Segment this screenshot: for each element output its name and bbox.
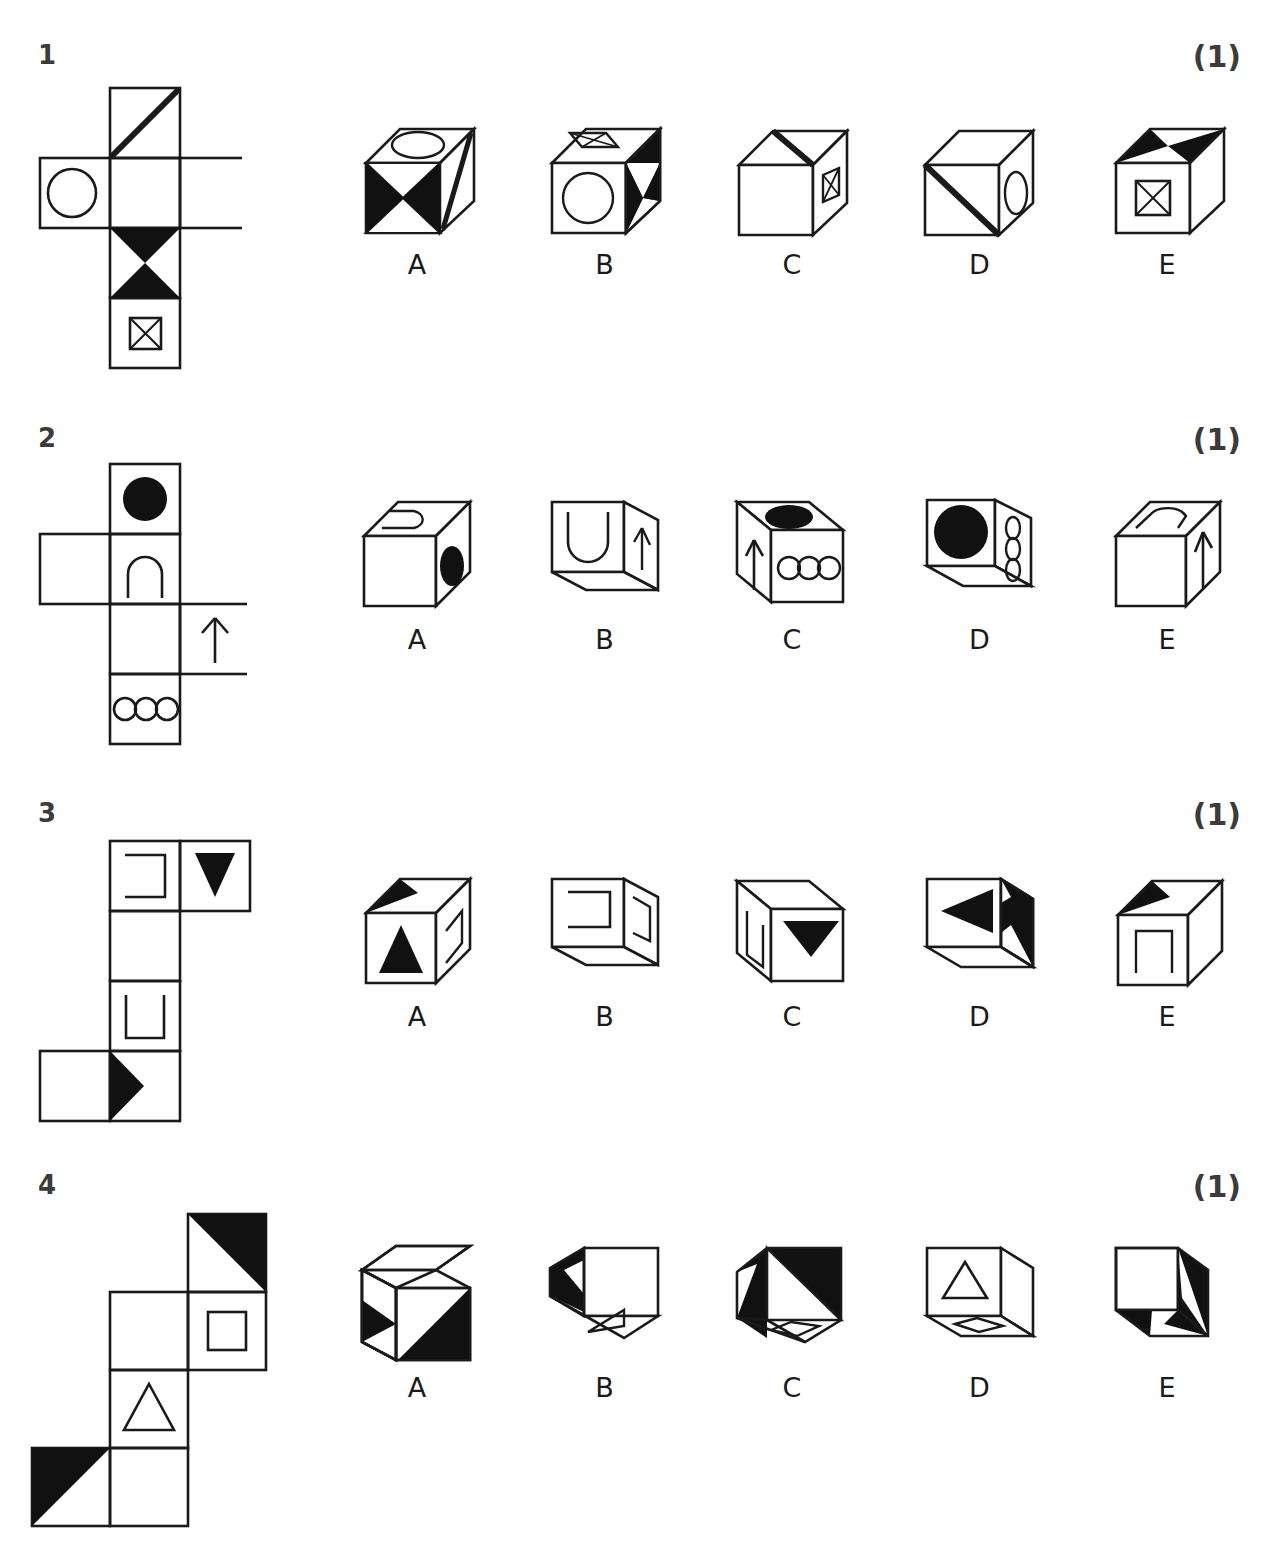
option-2-B[interactable]: B	[540, 490, 670, 653]
option-1-A-label: A	[408, 251, 426, 278]
options-row-2: A B	[352, 490, 1232, 653]
option-1-C[interactable]: C	[727, 115, 857, 278]
option-1-E-label: E	[1158, 251, 1175, 278]
question-number-1: 1	[38, 42, 56, 68]
option-1-E[interactable]: E	[1102, 115, 1232, 278]
question-block-3: 3 (1)	[0, 775, 1267, 1155]
option-3-E-top-black-tri	[1118, 881, 1170, 915]
net1-circle	[48, 169, 96, 217]
question-number-4: 4	[38, 1172, 56, 1198]
option-2-A-black-ellipse	[440, 546, 464, 586]
net3-bracket-u	[126, 995, 164, 1038]
option-4-B[interactable]: B	[540, 1238, 670, 1401]
option-2-A-label: A	[408, 626, 426, 653]
option-2-D-label: D	[969, 626, 990, 653]
options-row-3: A B	[352, 867, 1232, 1030]
option-3-B-label: B	[595, 1003, 614, 1030]
net-diagram-1	[32, 80, 242, 380]
question-mark-1: (1)	[1193, 42, 1241, 72]
net4-triangle-outline	[124, 1384, 174, 1430]
option-3-A-top-black-tri	[366, 879, 418, 913]
option-1-A[interactable]: A	[352, 115, 482, 278]
question-block-4: 4 (1)	[0, 1150, 1267, 1568]
net2-arrow-up	[202, 618, 228, 663]
question-mark-2: (1)	[1193, 425, 1241, 455]
net4-black-tri-bottomleft	[32, 1448, 110, 1526]
net2-three-circles	[114, 698, 178, 720]
net1-bowtie-bottom	[110, 263, 180, 298]
net3-bracket-open-left	[125, 855, 165, 897]
net1-bowtie-top	[110, 228, 180, 263]
option-4-C-label: C	[783, 1374, 802, 1401]
option-3-A[interactable]: A	[352, 867, 482, 1030]
option-4-A-label: A	[408, 1374, 426, 1401]
option-2-E[interactable]: E	[1102, 490, 1232, 653]
option-4-D-label: D	[969, 1374, 990, 1401]
net4-black-tri-topright	[188, 1214, 266, 1292]
option-3-C[interactable]: C	[727, 867, 857, 1030]
option-2-B-label: B	[595, 626, 614, 653]
option-4-B-label: B	[595, 1374, 614, 1401]
option-4-D[interactable]: D	[915, 1238, 1045, 1401]
net1-diagonal	[111, 89, 179, 157]
net-diagram-4	[28, 1208, 278, 1548]
option-1-E-top-tri-left	[1116, 129, 1168, 163]
question-number-3: 3	[38, 800, 56, 826]
option-2-D-black-circle	[934, 505, 988, 559]
option-4-E-label: E	[1158, 1374, 1175, 1401]
question-mark-4: (1)	[1193, 1172, 1241, 1202]
option-2-C-black-ellipse	[765, 505, 813, 529]
option-4-C[interactable]: C	[727, 1238, 857, 1401]
net3-black-triangle-right	[110, 1051, 144, 1121]
net2-black-circle	[123, 477, 167, 521]
question-number-2: 2	[38, 425, 56, 451]
option-1-D[interactable]: D	[915, 115, 1045, 278]
option-3-A-label: A	[408, 1003, 426, 1030]
question-block-2: 2 (1)	[0, 390, 1267, 780]
net2-arch	[128, 557, 162, 598]
option-1-D-label: D	[969, 251, 990, 278]
option-3-B[interactable]: B	[540, 867, 670, 1030]
option-3-E-label: E	[1158, 1003, 1175, 1030]
option-2-C-label: C	[783, 626, 802, 653]
option-3-D[interactable]: D	[915, 867, 1045, 1030]
net3-black-triangle-down	[195, 853, 235, 897]
option-3-D-label: D	[969, 1003, 990, 1030]
question-mark-3: (1)	[1193, 800, 1241, 830]
option-2-C[interactable]: C	[727, 490, 857, 653]
option-2-A[interactable]: A	[352, 490, 482, 653]
option-4-A[interactable]: A	[352, 1238, 482, 1401]
option-3-C-label: C	[783, 1003, 802, 1030]
test-page: 1 (1)	[0, 0, 1267, 1568]
option-2-E-label: E	[1158, 626, 1175, 653]
option-3-E[interactable]: E	[1102, 867, 1232, 1030]
option-4-E[interactable]: E	[1102, 1238, 1232, 1401]
option-2-D[interactable]: D	[915, 490, 1045, 653]
option-1-C-label: C	[783, 251, 802, 278]
option-1-B[interactable]: B	[540, 115, 670, 278]
net-diagram-3	[32, 833, 257, 1138]
net-diagram-2	[32, 458, 247, 768]
question-block-1: 1 (1)	[0, 0, 1267, 400]
option-1-B-label: B	[595, 251, 614, 278]
options-row-1: A	[352, 115, 1232, 278]
net4-small-square	[208, 1312, 246, 1350]
options-row-4: A B	[352, 1238, 1232, 1401]
